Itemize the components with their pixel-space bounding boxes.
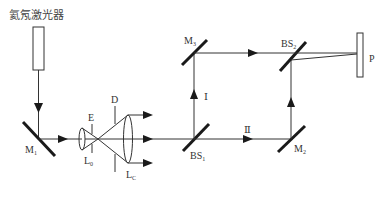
label-text: M [25,144,34,155]
label-text: M [294,143,303,154]
label-bs1: BS1 [190,151,205,162]
arrow-up-icon [287,97,295,107]
arrow-right-icon [143,159,153,167]
interferometer-diagram [0,0,390,197]
label-p: P [369,54,375,64]
label-sub: 2 [303,149,306,155]
arrow-up-icon [190,89,198,99]
arrow-right-icon [58,135,68,143]
label-e: E [88,113,94,123]
label-sub: 2 [293,44,296,50]
label-path-i: Ⅰ [204,92,208,102]
arrow-right-icon [143,111,153,119]
label-sub: 3 [193,41,196,47]
label-text: M [184,35,193,46]
label-text: BS [190,150,202,161]
label-m2: M2 [294,144,306,155]
beamsplitter-bs1 [183,124,209,151]
label-l0: L0 [84,156,93,167]
label-text: E [88,112,94,123]
label-text: P [369,53,375,64]
beam-bs2-to-p-2 [291,54,357,60]
label-text: BS [281,38,293,49]
label-m1: M1 [25,145,37,156]
arrow-right-icon [243,135,253,143]
arrow-right-icon [248,49,258,57]
label-text: D [111,94,118,105]
label-m3: M3 [184,36,196,47]
label-sub: 1 [34,150,37,156]
label-sub: 1 [202,156,205,162]
label-path-ii: Ⅱ [244,125,251,135]
screen-p [357,33,363,77]
label-sub: C [132,175,136,181]
label-lc: LC [126,170,136,181]
arrow-right-icon [143,135,153,143]
laser-tube [33,27,44,70]
label-sub: 0 [90,161,93,167]
arrow-down-icon [34,103,43,113]
label-bs2: BS2 [281,39,296,50]
label-d: D [111,95,118,105]
